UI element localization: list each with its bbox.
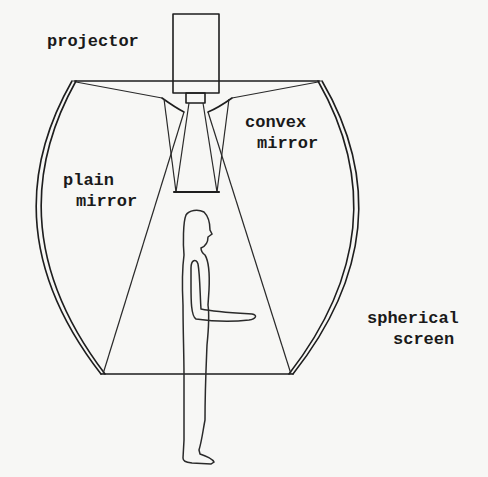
diagram-drawing [0, 0, 488, 477]
ray-right-top [232, 82, 318, 98]
label-spherical-screen: spherical screen [367, 308, 459, 350]
ray-left-top [76, 82, 162, 98]
label-spherical-text: spherical [367, 308, 459, 329]
convex-mirror [162, 98, 232, 112]
label-plain-text: plain [63, 170, 137, 191]
label-plain-mirror: plain mirror [63, 170, 137, 212]
projector-lens [186, 93, 205, 103]
label-projector-text: projector [47, 31, 139, 52]
human-figure [182, 210, 214, 464]
human-arm [191, 261, 256, 322]
label-screen-text: screen [367, 329, 459, 350]
label-convex-mirror: convex mirror [245, 112, 318, 154]
spherical-screen-left [36, 81, 105, 374]
label-mirror-text: mirror [245, 133, 318, 154]
label-convex-text: convex [245, 112, 318, 133]
diagram-canvas: projector convex mirror plain mirror sph… [0, 0, 488, 477]
ray-convex-left-down [103, 112, 184, 374]
label-mirror-text: mirror [63, 191, 137, 212]
label-projector: projector [47, 31, 139, 52]
